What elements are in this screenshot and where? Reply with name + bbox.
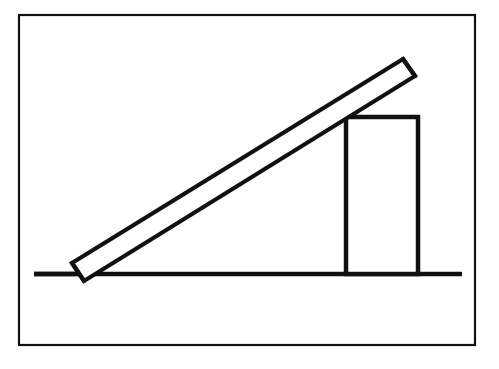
figure-root bbox=[0, 0, 499, 369]
canvas-background bbox=[0, 0, 499, 369]
block-rectangle bbox=[346, 117, 418, 274]
line-drawing-canvas bbox=[0, 0, 499, 369]
